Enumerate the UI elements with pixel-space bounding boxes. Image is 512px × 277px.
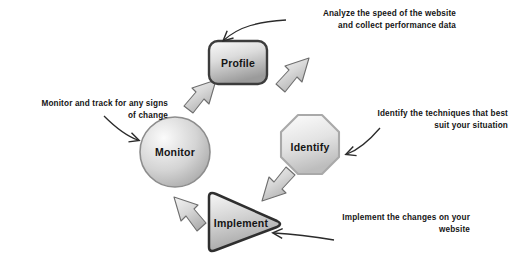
node-monitor-label: Monitor <box>155 146 195 158</box>
leader-line-profile <box>224 20 286 40</box>
arrow-profile-to-identify <box>276 58 309 92</box>
node-profile[interactable]: Profile <box>209 41 267 84</box>
diagram-canvas: Profile Identify Implement Monitor Analy… <box>0 0 512 277</box>
arrow-identify-to-implement <box>262 167 295 201</box>
arrow-implement-to-monitor <box>174 197 206 231</box>
annotation-identify: Identify the techniques that best suit y… <box>352 108 508 131</box>
leader-line-identify <box>347 128 380 154</box>
node-identify[interactable]: Identify <box>281 115 339 174</box>
node-profile-label: Profile <box>221 57 255 69</box>
annotation-monitor: Monitor and track for any signs of chang… <box>8 98 168 121</box>
arrow-monitor-to-profile <box>184 80 216 113</box>
node-implement-label: Implement <box>214 217 269 229</box>
diagram-svg: Profile Identify Implement Monitor <box>0 0 512 277</box>
annotation-profile: Analyze the speed of the website and col… <box>288 8 456 31</box>
node-implement[interactable]: Implement <box>209 193 280 251</box>
node-monitor[interactable]: Monitor <box>140 117 210 187</box>
annotation-implement: Implement the changes on your website <box>300 212 470 235</box>
node-identify-label: Identify <box>291 141 330 153</box>
